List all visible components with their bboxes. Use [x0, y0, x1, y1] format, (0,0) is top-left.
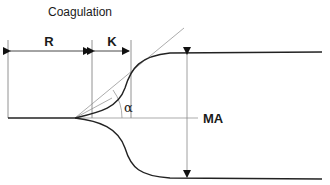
alpha-label: α: [124, 100, 133, 115]
ma-label: MA: [203, 111, 224, 126]
upper-trace: [75, 52, 322, 118]
k-label: K: [107, 34, 117, 49]
coagulation-diagram: Coagulation R K α MA: [0, 0, 330, 185]
diagram-title: Coagulation: [48, 5, 112, 19]
lower-trace: [75, 118, 322, 179]
r-label: R: [44, 34, 54, 49]
